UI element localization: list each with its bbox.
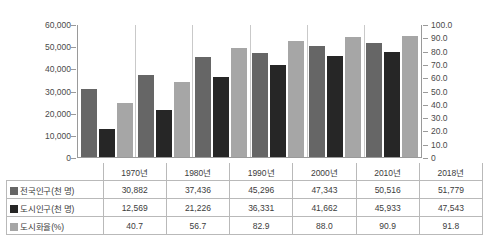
bar-group — [135, 25, 192, 157]
table-cell: 91.8 — [419, 217, 482, 235]
table-cell: 36,331 — [230, 199, 293, 217]
table-column-header: 1980년 — [166, 163, 229, 181]
left-axis-tick — [71, 47, 76, 48]
right-axis-tick-label: 30.0 — [431, 114, 448, 123]
chart-plot-region: 010,00020,00030,00040,00050,00060,000 01… — [0, 0, 489, 160]
bar — [345, 37, 361, 157]
bar — [213, 77, 229, 157]
right-axis-tick-label: 50.0 — [431, 87, 448, 96]
table-cell: 82.9 — [230, 217, 293, 235]
left-axis-tick — [71, 114, 76, 115]
series-label: 도시인구(천 명) — [20, 204, 74, 214]
bar — [288, 41, 304, 157]
left-axis-tick-label: 40,000 — [45, 65, 71, 74]
right-axis-tick — [423, 78, 428, 79]
bar — [384, 52, 400, 157]
legend-swatch-icon — [10, 223, 18, 231]
bar — [138, 75, 154, 157]
right-axis-tick — [423, 118, 428, 119]
bar — [402, 36, 418, 157]
table-cell: 40.7 — [103, 217, 166, 235]
table-cell: 90.9 — [356, 217, 419, 235]
bar — [174, 82, 190, 157]
table-column-header: 2018년 — [419, 163, 482, 181]
right-axis-tick — [423, 145, 428, 146]
table-cell: 30,882 — [103, 181, 166, 199]
left-axis-tick-label: 10,000 — [45, 131, 71, 140]
bar-group — [307, 25, 364, 157]
table-row-header: 도시인구(천 명) — [7, 199, 104, 217]
data-table: 1970년1980년1990년2000년2010년2018년전국인구(천 명)3… — [6, 163, 483, 235]
table-cell: 12,569 — [103, 199, 166, 217]
right-axis-tick — [423, 65, 428, 66]
left-axis-tick-label: 60,000 — [45, 21, 71, 30]
bar — [81, 89, 97, 157]
table-cell: 88.0 — [293, 217, 356, 235]
bar-group — [78, 25, 135, 157]
table-row: 도시인구(천 명)12,56921,22636,33141,66245,9334… — [7, 199, 483, 217]
series-label: 전국인구(천 명) — [20, 186, 74, 196]
table-cell: 45,933 — [356, 199, 419, 217]
category-separator — [364, 25, 365, 157]
table-cell: 47,543 — [419, 199, 482, 217]
table-cell: 50,516 — [356, 181, 419, 199]
category-separator — [135, 25, 136, 157]
bar — [117, 103, 133, 157]
table-header-row: 1970년1980년1990년2000년2010년2018년 — [7, 163, 483, 181]
left-axis-tick — [71, 158, 76, 159]
bar — [327, 56, 343, 157]
right-axis-tick-label: 20.0 — [431, 127, 448, 136]
right-axis-tick-label: 0 — [431, 154, 436, 163]
table-row: 전국인구(천 명)30,88237,43645,29647,34350,5165… — [7, 181, 483, 199]
right-axis-tick — [423, 52, 428, 53]
category-separator — [192, 25, 193, 157]
bar — [99, 129, 115, 157]
bars-container — [77, 25, 422, 158]
right-axis-tick — [423, 131, 428, 132]
category-separator — [250, 25, 251, 157]
right-axis-tick — [423, 38, 428, 39]
right-axis-tick — [423, 158, 428, 159]
right-axis-tick — [423, 105, 428, 106]
left-axis-tick — [71, 69, 76, 70]
bar — [366, 43, 382, 157]
bar — [195, 57, 211, 157]
data-table-body: 1970년1980년1990년2000년2010년2018년전국인구(천 명)3… — [7, 163, 483, 235]
table-row-header: 도시화율(%) — [7, 217, 104, 235]
right-axis: 010.020.030.040.050.060.070.080.090.0100… — [431, 0, 489, 160]
bar — [156, 110, 172, 157]
left-axis-tick — [71, 136, 76, 137]
right-axis-tick — [423, 25, 428, 26]
bar — [309, 46, 325, 157]
bar-group — [250, 25, 307, 157]
table-cell: 21,226 — [166, 199, 229, 217]
table-cell: 56.7 — [166, 217, 229, 235]
right-axis-tick — [423, 92, 428, 93]
legend-swatch-icon — [10, 205, 18, 213]
bar-group — [192, 25, 249, 157]
table-column-header: 1990년 — [230, 163, 293, 181]
table-cell: 47,343 — [293, 181, 356, 199]
bar-group — [364, 25, 421, 157]
bar — [270, 65, 286, 157]
category-separator — [307, 25, 308, 157]
right-axis-tick-label: 40.0 — [431, 100, 448, 109]
table-row-header: 전국인구(천 명) — [7, 181, 104, 199]
right-axis-tick-label: 70.0 — [431, 60, 448, 69]
table-cell: 51,779 — [419, 181, 482, 199]
table-column-header: 2010년 — [356, 163, 419, 181]
legend-swatch-icon — [10, 187, 18, 195]
table-column-header: 1970년 — [103, 163, 166, 181]
right-axis-tick-label: 100.0 — [431, 21, 452, 30]
bar — [231, 48, 247, 157]
bar — [252, 53, 268, 157]
right-axis-tick-label: 60.0 — [431, 74, 448, 83]
right-axis-tick-label: 90.0 — [431, 34, 448, 43]
table-cell: 37,436 — [166, 181, 229, 199]
table-cell: 45,296 — [230, 181, 293, 199]
left-axis-tick-label: 50,000 — [45, 43, 71, 52]
chart-figure: 010,00020,00030,00040,00050,00060,000 01… — [0, 0, 489, 244]
right-axis-tick-label: 80.0 — [431, 47, 448, 56]
table-cell: 41,662 — [293, 199, 356, 217]
left-axis: 010,00020,00030,00040,00050,00060,000 — [0, 0, 71, 160]
